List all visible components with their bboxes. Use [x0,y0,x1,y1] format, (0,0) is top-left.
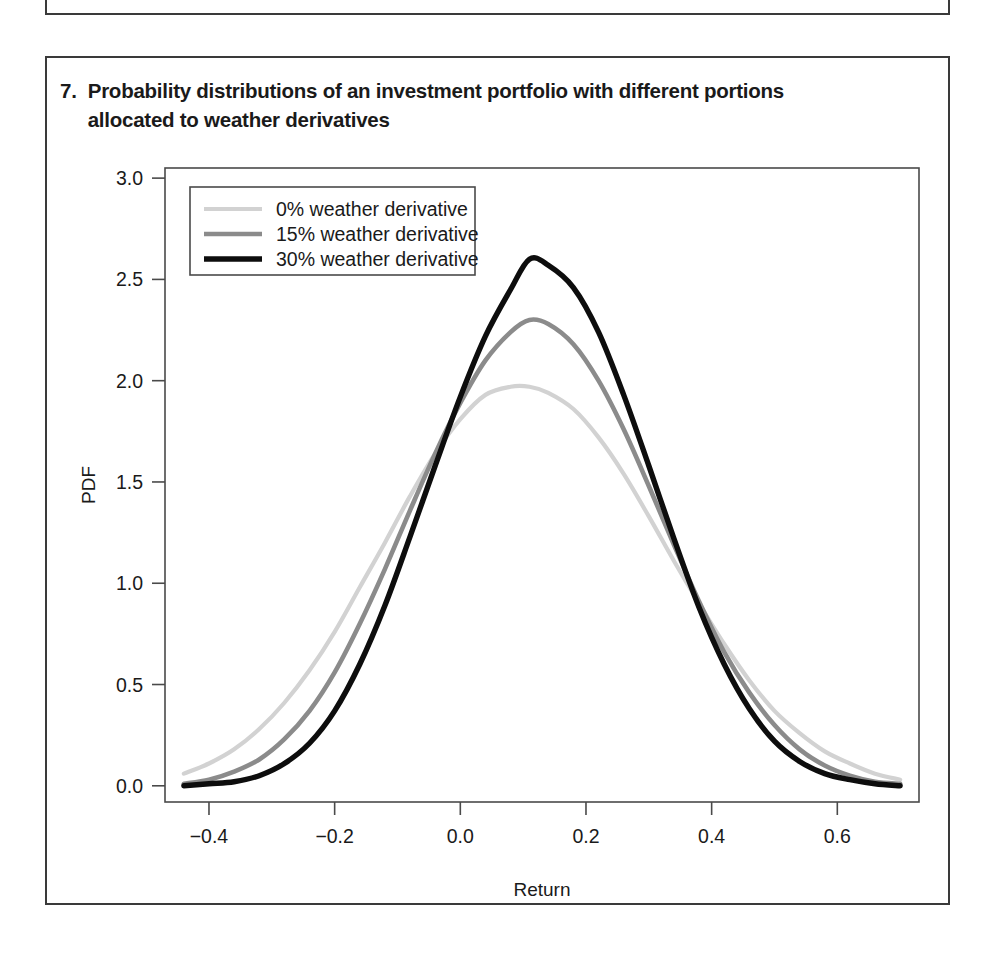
y-axis-tick-label: 1.5 [116,471,143,493]
chart-legend: 0% weather derivative15% weather derivat… [190,187,479,275]
x-axis-tick-label: −0.4 [190,825,229,847]
chart-series-group [184,258,900,786]
x-axis-tick-label: 0.4 [698,825,725,847]
legend-label: 0% weather derivative [276,198,468,220]
series-line [184,258,900,786]
x-axis-tick-label: 0.6 [824,825,851,847]
x-axis-ticks: −0.4−0.20.00.20.40.6 [190,802,851,847]
y-axis-tick-label: 1.0 [116,572,143,594]
y-axis-tick-label: 2.5 [116,268,143,290]
chart-plot-area: 0.00.51.01.52.02.53.0 −0.4−0.20.00.20.40… [47,58,948,903]
x-axis-tick-label: 0.2 [572,825,599,847]
pdf-line-chart: 0.00.51.01.52.02.53.0 −0.4−0.20.00.20.40… [47,58,948,903]
series-line [184,386,900,780]
y-axis-tick-label: 2.0 [116,370,143,392]
legend-label: 15% weather derivative [276,223,479,245]
y-axis-tick-label: 0.5 [116,674,143,696]
figure-panel: 7. Probability distributions of an inves… [45,56,950,905]
x-axis-tick-label: −0.2 [315,825,354,847]
y-axis-tick-label: 3.0 [116,167,143,189]
y-axis-ticks: 0.00.51.01.52.02.53.0 [116,167,165,797]
y-axis-tick-label: 0.0 [116,775,143,797]
x-axis-tick-label: 0.0 [447,825,474,847]
previous-figure-panel-edge [45,0,950,15]
x-axis-title: Return [513,879,570,900]
legend-label: 30% weather derivative [276,248,479,270]
y-axis-title: PDF [78,466,99,504]
